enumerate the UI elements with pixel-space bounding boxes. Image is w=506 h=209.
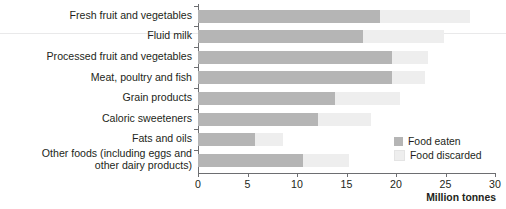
- bar-segment-food-eaten: [198, 92, 335, 105]
- x-axis-tick: [495, 173, 496, 177]
- bar-segment-food-eaten: [198, 71, 392, 84]
- bar-chart: Fresh fruit and vegetablesFluid milkProc…: [0, 0, 506, 209]
- y-axis-tick: [194, 47, 198, 48]
- y-axis-tick: [194, 150, 198, 151]
- y-axis-tick: [194, 26, 198, 27]
- bar-segment-food-discarded: [380, 10, 470, 23]
- bar-segment-food-eaten: [198, 113, 318, 126]
- legend-label-food-eaten: Food eaten: [408, 136, 461, 147]
- x-tick-label: 10: [277, 178, 317, 190]
- x-tick-label: 25: [426, 178, 466, 190]
- y-axis-tick: [194, 129, 198, 130]
- x-tick-label: 0: [178, 178, 218, 190]
- x-axis-tick: [396, 173, 397, 177]
- x-tick-label: 5: [228, 178, 268, 190]
- category-label: Meat, poultry and fish: [0, 72, 192, 84]
- bar-segment-food-eaten: [198, 10, 380, 23]
- bar-segment-food-eaten: [198, 133, 255, 146]
- x-axis-tick: [248, 173, 249, 177]
- category-label: Fats and oils: [0, 133, 192, 145]
- legend-label-food-discarded: Food discarded: [410, 150, 482, 161]
- bar-segment-food-eaten: [198, 51, 392, 64]
- x-axis-tick: [446, 173, 447, 177]
- bar-segment-food-discarded: [363, 30, 443, 43]
- x-tick-label: 15: [327, 178, 367, 190]
- legend-item-food-discarded: Food discarded: [394, 149, 482, 161]
- bar-segment-food-eaten: [198, 30, 363, 43]
- legend-swatch-food-eaten: [394, 137, 403, 146]
- category-label: Fresh fruit and vegetables: [0, 10, 192, 22]
- bar-segment-food-discarded: [255, 133, 283, 146]
- x-tick-label: 20: [376, 178, 416, 190]
- y-axis-tick: [194, 88, 198, 89]
- category-label: Caloric sweeteners: [0, 113, 192, 125]
- x-axis-title: Million tonnes: [426, 192, 496, 203]
- bar-segment-food-discarded: [318, 113, 371, 126]
- category-label: Other foods (including eggs and other da…: [0, 148, 192, 171]
- bar-segment-food-discarded: [392, 51, 428, 64]
- x-axis-tick: [297, 173, 298, 177]
- bar-segment-food-eaten: [198, 154, 303, 167]
- legend-swatch-food-discarded: [394, 150, 405, 161]
- category-label: Processed fruit and vegetables: [0, 51, 192, 63]
- legend-item-food-eaten: Food eaten: [394, 135, 482, 147]
- y-axis-tick: [194, 67, 198, 68]
- x-axis-tick: [347, 173, 348, 177]
- x-tick-label: 30: [475, 178, 506, 190]
- category-label: Fluid milk: [0, 30, 192, 42]
- bar-segment-food-discarded: [303, 154, 350, 167]
- category-label: Grain products: [0, 92, 192, 104]
- x-axis-tick: [198, 173, 199, 177]
- bar-segment-food-discarded: [392, 71, 425, 84]
- y-axis-tick: [194, 109, 198, 110]
- chart-legend: Food eaten Food discarded: [394, 135, 482, 163]
- y-axis-tick: [194, 6, 198, 7]
- bar-segment-food-discarded: [335, 92, 400, 105]
